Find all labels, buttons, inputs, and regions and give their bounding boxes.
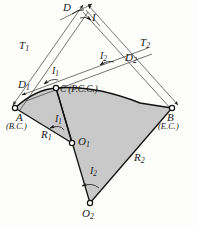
vertex-point-c [53,85,58,90]
label-o1-base: O [78,135,86,147]
label-t2: T2 [140,37,150,50]
angle-arc-i1-top [44,80,58,85]
label-i1-bottom-sub: 1 [58,118,62,126]
label-i-base: I [92,11,96,23]
label-d2: D2 [125,52,137,65]
label-d: D [63,2,71,13]
label-d2-base: D [125,51,133,63]
label-o2-sub: 2 [90,212,94,221]
label-i: I [92,12,96,23]
label-r1-sub: 1 [48,133,52,142]
label-d1-sub: 1 [26,83,30,92]
label-r1: R1 [41,129,52,142]
vertex-point-o2 [87,200,92,205]
label-d1-base: D [18,78,26,90]
vertex-point-o1 [69,140,74,145]
vertex-point-a [12,105,17,110]
label-i2-bottom: I2 [90,166,97,178]
label-b-note: (E.C.) [158,122,179,131]
label-o2: O2 [82,208,94,221]
label-a-note: (B.C.) [6,122,27,131]
label-r2: R2 [134,152,145,165]
label-i1-top-sub: 1 [55,70,59,78]
label-i1-top: I1 [52,66,59,78]
label-o1-sub: 1 [86,140,90,149]
label-t1: T1 [19,40,29,53]
label-t2-sub: 2 [146,41,150,50]
label-b-note-text: (E.C.) [158,121,179,131]
label-i2-bottom-sub: 2 [93,170,97,178]
label-o1: O1 [78,136,90,149]
label-a-note-text: (B.C.) [6,121,27,131]
label-d2-sub: 2 [133,56,137,65]
label-t1-sub: 1 [25,44,29,53]
compound-curve-diagram: D I T1 T2 I2 D2 I1 D1 C (P.C.C.) A (B.C.… [0,0,198,226]
vertex-point-b [169,105,174,110]
label-d1: D1 [18,79,30,92]
label-c-pcc-text: C (P.C.C.) [60,84,97,94]
label-r1-base: R [41,128,48,140]
label-d-base: D [63,1,71,13]
angle-arc-i-apex [80,17,91,20]
label-i2-top-sub: 2 [103,55,107,63]
label-c-pcc: C (P.C.C.) [60,85,97,95]
label-i2-top: I2 [100,51,107,63]
label-r2-base: R [134,151,141,163]
label-i1-bottom: I1 [55,114,62,126]
label-o2-base: O [82,207,90,219]
label-r2-sub: 2 [141,156,145,165]
